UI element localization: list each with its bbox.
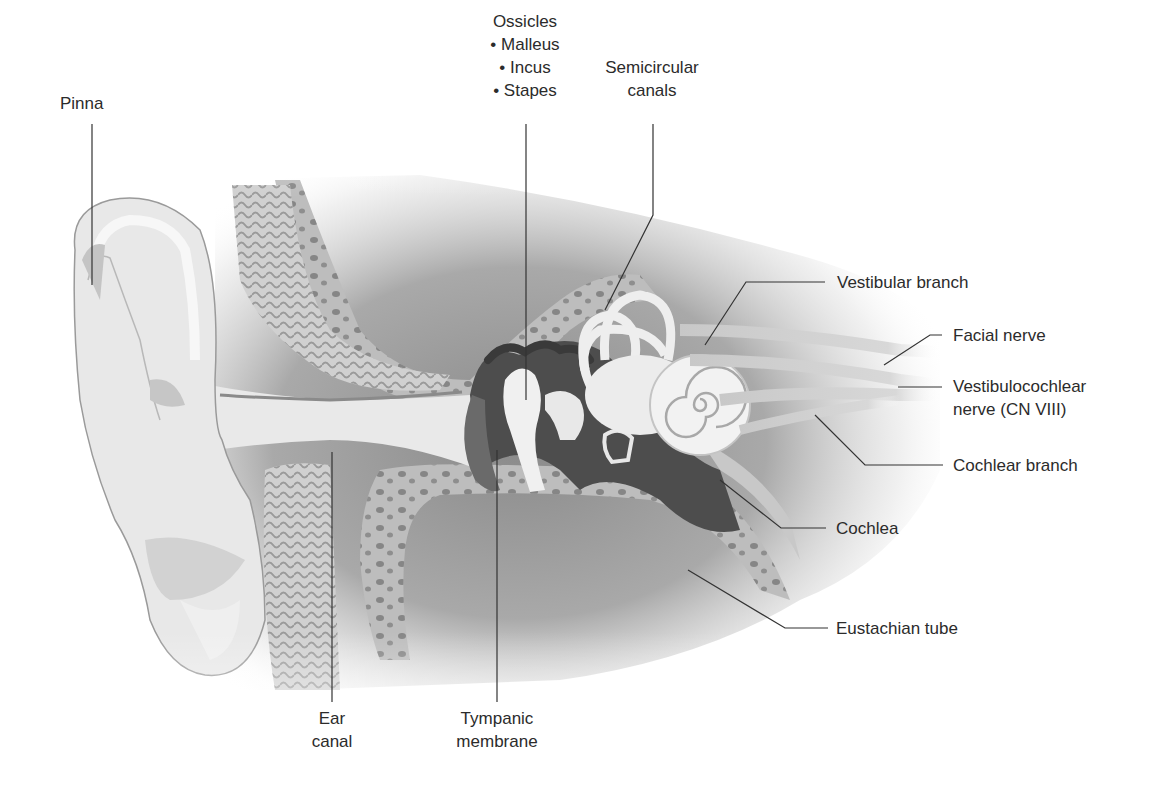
- label-tympanic-membrane-line1: Tympanic: [456, 707, 537, 730]
- label-vestibular-branch-text: Vestibular branch: [837, 271, 968, 294]
- label-vestibulocochlear-line1: Vestibulocochlear: [953, 375, 1086, 398]
- label-vestibulocochlear-nerve: Vestibulocochlear nerve (CN VIII): [953, 375, 1086, 421]
- label-ear-canal-line2: canal: [312, 730, 353, 753]
- label-cochlea-text: Cochlea: [836, 517, 898, 540]
- label-eustachian-tube: Eustachian tube: [836, 617, 958, 640]
- label-ear-canal: Ear canal: [312, 707, 353, 753]
- cochlea-shape: [650, 355, 750, 455]
- label-ossicles-incus: • Incus: [490, 56, 559, 79]
- label-ossicles-title: Ossicles: [490, 10, 559, 33]
- label-tympanic-membrane-line2: membrane: [456, 730, 537, 753]
- label-ossicles-stapes: • Stapes: [490, 79, 559, 102]
- label-cochlear-branch-text: Cochlear branch: [953, 454, 1078, 477]
- label-semicircular-canals-line1: Semicircular: [605, 56, 699, 79]
- label-vestibulocochlear-line2: nerve (CN VIII): [953, 398, 1086, 421]
- label-semicircular-canals-line2: canals: [605, 79, 699, 102]
- label-vestibular-branch: Vestibular branch: [837, 271, 968, 294]
- label-cochlea: Cochlea: [836, 517, 898, 540]
- label-eustachian-tube-text: Eustachian tube: [836, 617, 958, 640]
- label-pinna: Pinna: [60, 92, 103, 115]
- label-facial-nerve-text: Facial nerve: [953, 324, 1046, 347]
- label-ossicles-malleus: • Malleus: [490, 33, 559, 56]
- label-cochlear-branch: Cochlear branch: [953, 454, 1078, 477]
- label-ear-canal-line1: Ear: [312, 707, 353, 730]
- label-pinna-text: Pinna: [60, 92, 103, 115]
- label-tympanic-membrane: Tympanic membrane: [456, 707, 537, 753]
- label-ossicles: Ossicles • Malleus • Incus • Stapes: [490, 10, 559, 102]
- label-semicircular-canals: Semicircular canals: [605, 56, 699, 102]
- label-facial-nerve: Facial nerve: [953, 324, 1046, 347]
